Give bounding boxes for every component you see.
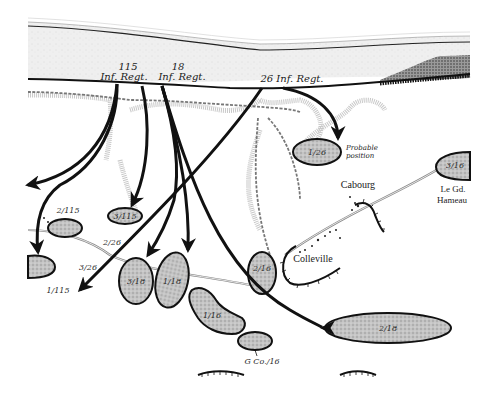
svg-text:3/18: 3/18 — [127, 277, 145, 286]
svg-text:2/18: 2/18 — [378, 324, 397, 333]
unit-1-16[interactable]: 1/16 — [189, 288, 245, 334]
svg-text:Inf. Regt.: Inf. Regt. — [157, 71, 205, 82]
unit-2-18[interactable]: 2/18 — [325, 313, 451, 343]
svg-text:Inf. Regt.: Inf. Regt. — [99, 71, 147, 82]
svg-text:position: position — [346, 152, 375, 160]
arrow-115-to-3-115 — [132, 86, 147, 205]
unit-positions: 1/26 3/16 3/115 3/18 1/18 2/16 — [28, 139, 470, 356]
svg-text:1/18: 1/18 — [163, 277, 181, 286]
unit-3-18[interactable]: 3/18 — [119, 258, 153, 304]
unit-1-18[interactable]: 1/18 — [151, 249, 194, 310]
svg-text:2/16: 2/16 — [252, 264, 271, 273]
arrow-115-west — [28, 84, 117, 185]
svg-text:26 Inf. Regt.: 26 Inf. Regt. — [259, 73, 323, 84]
unit-1-115[interactable] — [28, 256, 55, 278]
svg-text:Probable: Probable — [345, 144, 378, 152]
svg-text:3/16: 3/16 — [446, 161, 464, 170]
unit-3-16[interactable]: 3/16 — [436, 152, 470, 180]
svg-text:3/26: 3/26 — [79, 263, 97, 272]
svg-text:2/115: 2/115 — [55, 206, 79, 215]
svg-text:Le Gd.: Le Gd. — [441, 184, 466, 194]
svg-text:Colleville: Colleville — [293, 253, 333, 264]
svg-text:1/115: 1/115 — [46, 286, 69, 295]
unit-2-115[interactable] — [48, 219, 82, 237]
unit-1-26[interactable]: 1/26 — [293, 139, 341, 165]
svg-text:1/26: 1/26 — [308, 148, 326, 157]
svg-text:G Co./16: G Co./16 — [244, 357, 279, 366]
svg-text:1/16: 1/16 — [203, 311, 221, 320]
arrow-18-to-3-18 — [148, 86, 177, 255]
svg-text:3/115: 3/115 — [113, 212, 136, 221]
strongpoints — [198, 203, 384, 375]
omaha-beach-map: 1/26 3/16 3/115 3/18 1/18 2/16 — [0, 0, 493, 399]
svg-text:2/26: 2/26 — [102, 238, 121, 247]
strongpoint-hachures — [202, 199, 385, 377]
arrow-26-to-1-26 — [283, 88, 338, 138]
unit-g-co-16[interactable] — [238, 332, 272, 356]
svg-text:Cabourg: Cabourg — [341, 179, 375, 190]
unit-3-115[interactable]: 3/115 — [108, 208, 142, 224]
svg-text:Hameau: Hameau — [437, 195, 467, 205]
